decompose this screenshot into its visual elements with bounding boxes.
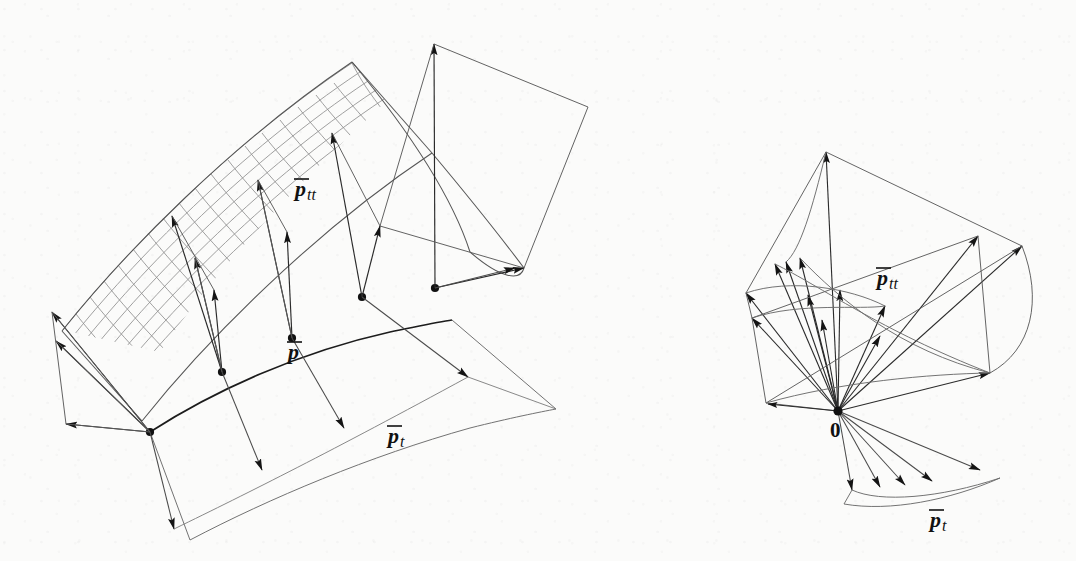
label-ptt-right-subscript: tt bbox=[889, 275, 898, 292]
label-pt-right: pt bbox=[928, 507, 947, 534]
tangent-sheet bbox=[150, 320, 556, 540]
pt-tip-envelope-left bbox=[174, 377, 556, 529]
diagram-canvas: ptt p pt bbox=[0, 0, 1076, 561]
label-origin: 0 bbox=[830, 418, 841, 442]
pt-vector-group-left bbox=[150, 268, 515, 529]
pt-vector bbox=[435, 268, 515, 288]
label-pt-right-subscript: t bbox=[942, 517, 947, 534]
surface-right-lobe bbox=[352, 62, 524, 276]
ptt-vector bbox=[332, 133, 362, 297]
ptt-vector bbox=[838, 236, 978, 411]
ptt-vector bbox=[768, 404, 838, 411]
figure-root: ptt p pt bbox=[0, 0, 1076, 561]
label-origin-symbol: 0 bbox=[830, 418, 841, 442]
ptt-vector bbox=[362, 226, 380, 297]
base-parameter-curve bbox=[150, 320, 452, 432]
ptt-vector bbox=[838, 373, 990, 411]
ptt-vector bbox=[838, 290, 840, 411]
pt-vector bbox=[838, 411, 932, 481]
pt-vector bbox=[222, 372, 262, 470]
left-panel: ptt p pt bbox=[52, 44, 588, 540]
label-pt-left: pt bbox=[386, 423, 405, 450]
pt-vector bbox=[362, 297, 468, 377]
pt-tip-envelope-right bbox=[844, 478, 1000, 506]
pt-vector bbox=[150, 432, 174, 529]
ptt-left-small-arrow-right bbox=[768, 404, 838, 411]
ptt-vector bbox=[838, 336, 880, 411]
surface-mesh bbox=[62, 63, 436, 428]
label-pt-left-subscript: t bbox=[400, 433, 405, 450]
pt-vector-group-right bbox=[838, 411, 980, 490]
ptt-vector bbox=[434, 44, 435, 288]
label-ptt-right: ptt bbox=[875, 265, 898, 292]
ptt-vector bbox=[746, 293, 838, 411]
label-ptt-left-subscript: tt bbox=[307, 186, 316, 203]
ptt-vector-group-left bbox=[52, 44, 524, 432]
label-ptt-left: ptt bbox=[293, 176, 316, 203]
ptt-vector bbox=[838, 246, 1022, 411]
right-panel: ptt 0 pt bbox=[746, 152, 1032, 534]
ptt-tip-curves-right bbox=[746, 152, 990, 403]
pt-vector bbox=[838, 411, 905, 485]
origin-point-marker bbox=[833, 406, 842, 415]
pt-vector bbox=[838, 411, 980, 470]
ptt-vector bbox=[287, 232, 292, 338]
